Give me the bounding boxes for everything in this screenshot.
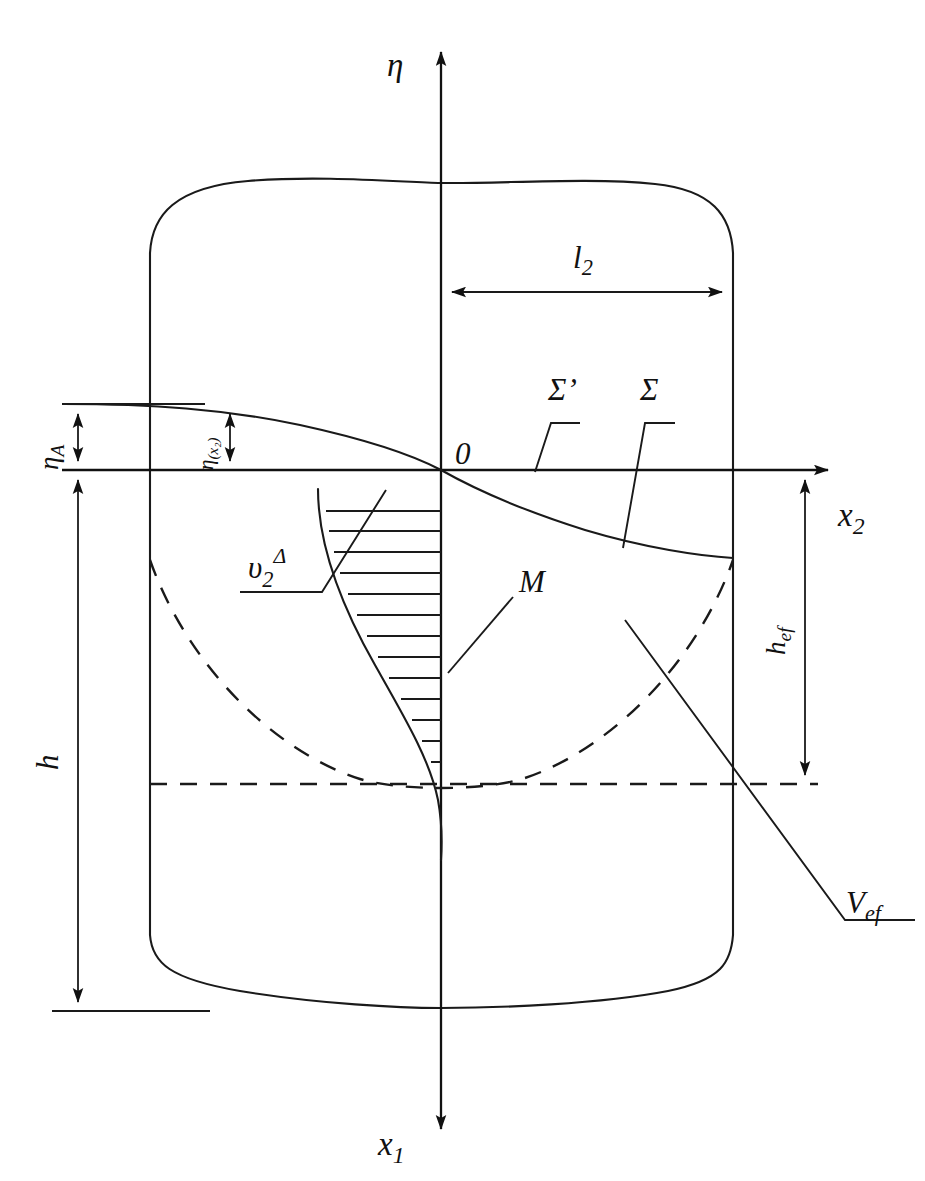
h-dimension-label: h: [30, 755, 65, 771]
eta-A-dimension-label: ηA: [34, 445, 68, 470]
velocity-profile-region: [318, 489, 442, 860]
m-leader: [448, 597, 513, 673]
eta-axis-label: η: [387, 47, 403, 83]
v2-delta-label: υ2Δ: [248, 544, 286, 592]
eta-x2-label-group: η(x₂): [194, 438, 222, 470]
dimension-eta-A: [62, 404, 205, 461]
x1-axis-label: x1: [377, 1126, 405, 1168]
h-label-group: h: [30, 755, 65, 771]
velocity-profile-hatching: [326, 511, 441, 762]
eta-A-label-group: ηA: [34, 445, 68, 470]
sigma-prime-leader: [535, 423, 580, 472]
sigma-leader: [623, 423, 675, 548]
v-ef-label: Vef: [846, 885, 884, 926]
v-ef-leader: [625, 620, 915, 920]
x2-axis-label: x2: [837, 497, 865, 539]
h-ef-label-group: hef: [761, 625, 795, 655]
technical-diagram-svg: η x2 x1 0 l2 Σ’ Σ: [0, 0, 925, 1181]
coordinate-axes: [62, 52, 828, 1129]
sigma-label: Σ: [639, 372, 658, 407]
velocity-profile-curve: [318, 489, 442, 860]
eta-x2-dimension-label: η(x₂): [194, 438, 222, 470]
sigma-prime-label: Σ’: [547, 372, 577, 407]
h-ef-dimension-label: hef: [761, 625, 795, 655]
figure-root: η x2 x1 0 l2 Σ’ Σ: [0, 0, 925, 1181]
free-surface-curve: [63, 404, 733, 558]
origin-label: 0: [455, 436, 471, 471]
l2-dimension-label: l2: [573, 240, 593, 280]
free-surface-path: [63, 404, 733, 558]
dimension-h: [52, 480, 210, 1011]
m-label: M: [518, 564, 547, 599]
